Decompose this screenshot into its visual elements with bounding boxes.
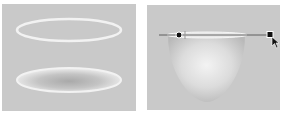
ellipse-ring[interactable]	[17, 19, 121, 41]
right-canvas-panel	[147, 5, 280, 110]
gradient-handle-end-icon[interactable]	[267, 32, 273, 38]
pointer-cursor-icon	[272, 37, 279, 48]
left-canvas-art	[2, 4, 136, 111]
gradient-handle-start-icon[interactable]	[176, 32, 182, 38]
shaded-ellipse[interactable]	[17, 68, 121, 92]
left-canvas-panel	[2, 4, 136, 111]
right-canvas-art	[147, 5, 280, 110]
dome-shape[interactable]	[168, 35, 245, 102]
